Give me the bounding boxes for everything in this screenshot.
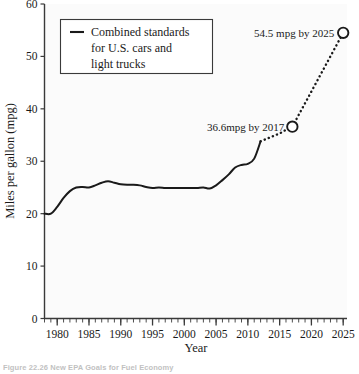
legend-label-line-1: Combined standards bbox=[91, 25, 190, 39]
x-axis-major-ticks bbox=[57, 319, 343, 326]
x-tick-label-1985: 1985 bbox=[77, 328, 100, 340]
x-tick-label-2015: 2015 bbox=[268, 328, 291, 340]
x-axis-tick-labels: 1980198519901995200020052010201520202025 bbox=[46, 328, 355, 340]
x-tick-label-1980: 1980 bbox=[46, 328, 69, 340]
figure-container: 0102030405060 19801985199019952000200520… bbox=[0, 0, 359, 374]
fuel-economy-line-chart: 0102030405060 19801985199019952000200520… bbox=[0, 0, 359, 374]
x-tick-label-2005: 2005 bbox=[205, 328, 228, 340]
x-tick-label-2010: 2010 bbox=[236, 328, 259, 340]
x-axis-title: Year bbox=[184, 341, 208, 355]
y-tick-label-10: 10 bbox=[26, 260, 38, 272]
y-tick-label-30: 30 bbox=[26, 155, 38, 167]
x-tick-label-2025: 2025 bbox=[332, 328, 355, 340]
figure-caption: Figure 22.26 New EPA Goals for Fuel Econ… bbox=[3, 362, 303, 373]
legend-label-line-3: light trucks bbox=[91, 57, 146, 71]
x-tick-label-1990: 1990 bbox=[109, 328, 132, 340]
annotation-2025-label: 54.5 mpg by 2025 bbox=[254, 27, 335, 39]
y-axis-tick-labels: 0102030405060 bbox=[26, 0, 38, 325]
marker-2017 bbox=[287, 121, 297, 131]
annotation-2017-label: 36.6mpg by 2017 bbox=[207, 121, 285, 133]
legend-label-line-2: for U.S. cars and bbox=[91, 41, 172, 55]
y-tick-label-40: 40 bbox=[26, 103, 38, 115]
x-tick-label-2000: 2000 bbox=[173, 328, 196, 340]
y-tick-label-0: 0 bbox=[32, 313, 38, 325]
y-axis-title: Miles per gallon (mpg) bbox=[3, 103, 17, 219]
y-tick-label-20: 20 bbox=[26, 208, 38, 220]
x-tick-label-1995: 1995 bbox=[141, 328, 164, 340]
chart-legend: Combined standards for U.S. cars and lig… bbox=[61, 20, 213, 74]
y-tick-label-60: 60 bbox=[26, 0, 38, 10]
y-tick-label-50: 50 bbox=[26, 50, 38, 62]
x-tick-label-2020: 2020 bbox=[300, 328, 323, 340]
marker-2025 bbox=[338, 28, 348, 38]
